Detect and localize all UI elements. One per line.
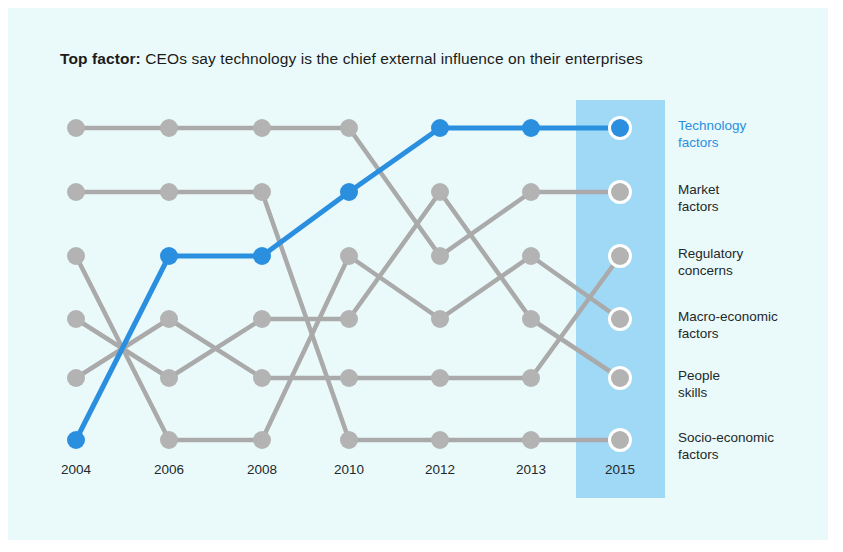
data-point[interactable] [340,369,358,387]
row-label-6: Socio-economic factors [678,430,774,463]
data-point[interactable] [340,119,358,137]
series-segment [440,192,531,256]
chart-screenshot: Top factor: CEOs say technology is the c… [0,0,843,552]
data-point[interactable] [160,247,178,265]
data-point[interactable] [340,247,358,265]
data-point[interactable] [67,247,85,265]
data-point[interactable] [431,247,449,265]
row-label-5: People skills [678,368,720,401]
series-segment [349,192,440,319]
x-axis-label-2015: 2015 [590,462,650,477]
data-point[interactable] [611,119,629,137]
data-point[interactable] [67,431,85,449]
data-point[interactable] [253,119,271,137]
row-label-2: Market factors [678,182,719,215]
data-point[interactable] [522,310,540,328]
data-point[interactable] [611,183,629,201]
data-point[interactable] [253,431,271,449]
data-point[interactable] [253,247,271,265]
data-point[interactable] [340,431,358,449]
data-point[interactable] [253,183,271,201]
data-point[interactable] [611,369,629,387]
row-label-1: Technology factors [678,118,746,151]
data-point[interactable] [522,369,540,387]
data-point[interactable] [67,183,85,201]
data-point[interactable] [160,183,178,201]
series-segment [440,256,531,319]
data-point[interactable] [253,310,271,328]
data-point[interactable] [431,119,449,137]
x-axis-label-2013: 2013 [501,462,561,477]
data-point[interactable] [431,310,449,328]
data-point[interactable] [67,369,85,387]
data-point[interactable] [431,183,449,201]
series-segment [349,128,440,192]
x-axis-label-2004: 2004 [46,462,106,477]
x-axis-label-2006: 2006 [139,462,199,477]
series-segment [440,192,531,319]
x-axis-label-2012: 2012 [410,462,470,477]
data-point[interactable] [522,183,540,201]
series-segment [262,256,349,440]
data-point[interactable] [611,247,629,265]
x-axis-label-2008: 2008 [232,462,292,477]
x-axis-label-2010: 2010 [319,462,379,477]
data-point[interactable] [611,431,629,449]
data-point[interactable] [522,431,540,449]
data-point[interactable] [160,310,178,328]
data-point[interactable] [522,247,540,265]
data-point[interactable] [67,310,85,328]
data-point[interactable] [160,369,178,387]
data-point[interactable] [431,369,449,387]
data-point[interactable] [160,119,178,137]
data-point[interactable] [431,431,449,449]
data-point[interactable] [253,369,271,387]
row-label-3: Regulatory concerns [678,246,743,279]
row-label-4: Macro-economic factors [678,309,778,342]
data-point[interactable] [160,431,178,449]
series-segment [349,128,440,256]
data-point[interactable] [340,183,358,201]
data-point[interactable] [611,310,629,328]
data-point[interactable] [522,119,540,137]
series-segment [349,256,440,319]
series-segment [262,192,349,440]
link-layer [76,128,620,440]
data-point[interactable] [340,310,358,328]
data-point[interactable] [67,119,85,137]
